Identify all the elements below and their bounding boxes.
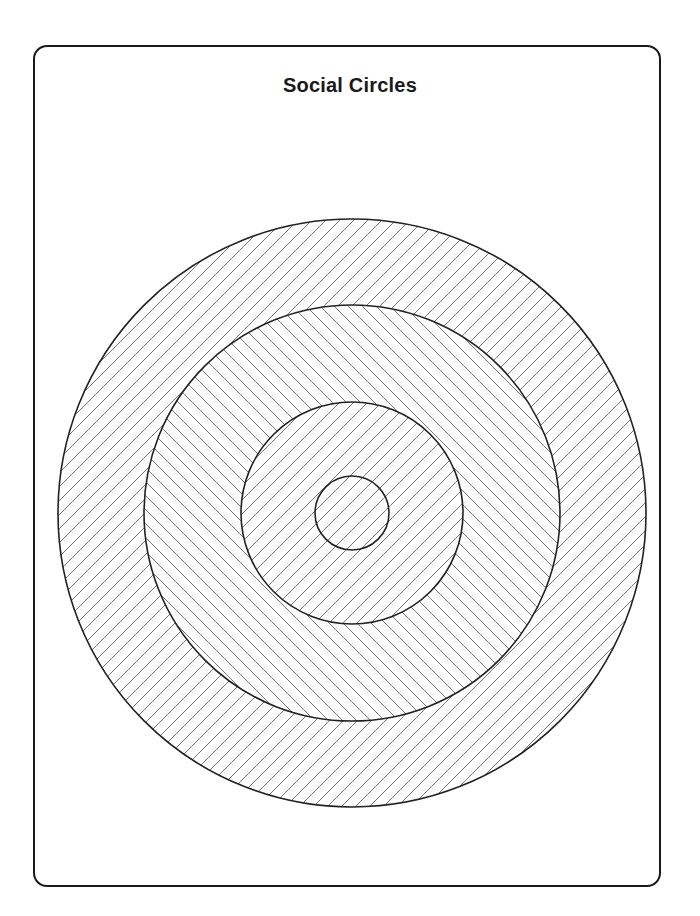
social-circles-diagram bbox=[0, 0, 700, 916]
inner-circle bbox=[315, 476, 389, 550]
